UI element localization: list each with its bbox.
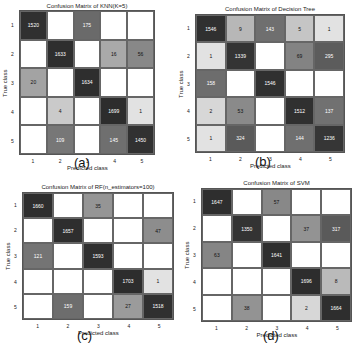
matrix-cell bbox=[127, 11, 154, 40]
matrix-cell bbox=[262, 215, 292, 241]
y-tick-label: 3 bbox=[193, 252, 196, 258]
x-tick-label: 5 bbox=[140, 158, 143, 164]
chart-title: Confusion Matrix of SVM bbox=[201, 180, 352, 186]
matrix-cell bbox=[20, 40, 47, 69]
matrix-cell bbox=[202, 295, 232, 321]
matrix-cell: 158 bbox=[196, 70, 226, 97]
confusion-matrix-grid: 164757135037317631641169683821664 bbox=[201, 188, 352, 322]
matrix-cell bbox=[23, 294, 53, 319]
matrix-cell bbox=[127, 68, 154, 97]
matrix-cell bbox=[53, 269, 83, 294]
matrix-cell: 295 bbox=[314, 42, 344, 69]
matrix-cell bbox=[143, 243, 173, 268]
matrix-cell bbox=[20, 97, 47, 126]
y-axis-label: True class bbox=[184, 242, 190, 269]
x-tick-label: 2 bbox=[59, 158, 62, 164]
matrix-cell bbox=[291, 189, 321, 215]
y-axis-label: True class bbox=[5, 243, 11, 270]
x-tick-label: 4 bbox=[127, 323, 130, 329]
matrix-cell: 63 bbox=[202, 242, 232, 268]
matrix-cell: 1633 bbox=[47, 40, 74, 69]
matrix-cell bbox=[100, 11, 127, 40]
matrix-cell: 1647 bbox=[202, 189, 232, 215]
matrix-cell bbox=[53, 243, 83, 268]
y-tick-label: 4 bbox=[193, 279, 196, 285]
panel-caption: (c) bbox=[77, 328, 92, 343]
matrix-cell bbox=[321, 242, 351, 268]
matrix-cell: 35 bbox=[83, 193, 113, 218]
panel-caption: (b) bbox=[255, 154, 271, 169]
matrix-cell bbox=[23, 269, 53, 294]
matrix-cell: 144 bbox=[285, 125, 315, 152]
matrix-cell: 109 bbox=[47, 125, 74, 154]
matrix-cell bbox=[226, 70, 256, 97]
matrix-cell: 1664 bbox=[321, 295, 351, 321]
matrix-cell: 1 bbox=[143, 269, 173, 294]
matrix-cell bbox=[20, 125, 47, 154]
matrix-cell: 69 bbox=[285, 42, 315, 69]
matrix-cell: 1660 bbox=[23, 193, 53, 218]
matrix-cell: 1 bbox=[314, 15, 344, 42]
matrix-cell: 1 bbox=[196, 125, 226, 152]
matrix-cell: 1641 bbox=[262, 242, 292, 268]
matrix-cell: 1450 bbox=[127, 125, 154, 154]
matrix-cell bbox=[232, 268, 262, 294]
matrix-cell bbox=[255, 125, 285, 152]
matrix-cell: 38 bbox=[232, 295, 262, 321]
matrix-cell bbox=[74, 97, 101, 126]
x-tick-label: 4 bbox=[306, 325, 309, 331]
matrix-cell: 1 bbox=[196, 42, 226, 69]
panel-caption: (d) bbox=[263, 328, 279, 343]
matrix-cell: 1512 bbox=[285, 97, 315, 124]
matrix-cell: 1696 bbox=[291, 268, 321, 294]
matrix-cell: 1657 bbox=[53, 218, 83, 243]
matrix-cell: 175 bbox=[74, 11, 101, 40]
matrix-cell: 56 bbox=[127, 40, 154, 69]
x-tick-label: 4 bbox=[299, 156, 302, 162]
y-axis-label: True class bbox=[178, 70, 184, 97]
x-tick-label: 4 bbox=[113, 158, 116, 164]
x-tick-label: 5 bbox=[336, 325, 339, 331]
y-tick-label: 5 bbox=[14, 304, 17, 310]
x-tick-label: 1 bbox=[209, 156, 212, 162]
matrix-cell bbox=[23, 218, 53, 243]
chart-title: Confusion Matrix of Decision Tree bbox=[195, 6, 345, 12]
y-tick-label: 3 bbox=[187, 81, 190, 87]
matrix-cell bbox=[53, 193, 83, 218]
y-tick-label: 4 bbox=[14, 279, 17, 285]
y-tick-label: 3 bbox=[11, 80, 14, 86]
matrix-cell bbox=[74, 40, 101, 69]
y-axis-label: True class bbox=[2, 69, 8, 96]
matrix-cell bbox=[291, 242, 321, 268]
y-tick-label: 3 bbox=[14, 253, 17, 259]
chart-title: Confusion Matrix of RF(n_estimators=100) bbox=[22, 184, 174, 190]
y-tick-label: 1 bbox=[14, 202, 17, 208]
matrix-cell: 8 bbox=[321, 268, 351, 294]
y-tick-label: 4 bbox=[11, 109, 14, 115]
matrix-cell: 16 bbox=[100, 40, 127, 69]
matrix-cell bbox=[255, 42, 285, 69]
matrix-cell: 37 bbox=[291, 215, 321, 241]
matrix-cell: 1518 bbox=[143, 294, 173, 319]
matrix-cell bbox=[113, 218, 143, 243]
matrix-cell: 9 bbox=[226, 15, 256, 42]
y-tick-label: 2 bbox=[14, 227, 17, 233]
matrix-cell bbox=[83, 218, 113, 243]
matrix-cell: 1593 bbox=[83, 243, 113, 268]
x-tick-label: 3 bbox=[97, 323, 100, 329]
y-tick-label: 5 bbox=[11, 138, 14, 144]
x-tick-label: 1 bbox=[32, 158, 35, 164]
matrix-cell: 317 bbox=[321, 215, 351, 241]
chart-title: Confusion Matrix of KNN(K=5) bbox=[19, 3, 155, 9]
matrix-cell bbox=[83, 294, 113, 319]
panel-caption: (a) bbox=[74, 155, 90, 170]
matrix-cell bbox=[47, 68, 74, 97]
x-tick-label: 5 bbox=[329, 156, 332, 162]
x-tick-label: 1 bbox=[36, 323, 39, 329]
matrix-cell: 1236 bbox=[314, 125, 344, 152]
matrix-cell: 1703 bbox=[113, 269, 143, 294]
y-tick-label: 1 bbox=[193, 198, 196, 204]
matrix-cell: 1634 bbox=[74, 68, 101, 97]
x-tick-label: 5 bbox=[158, 323, 161, 329]
matrix-cell: 57 bbox=[262, 189, 292, 215]
